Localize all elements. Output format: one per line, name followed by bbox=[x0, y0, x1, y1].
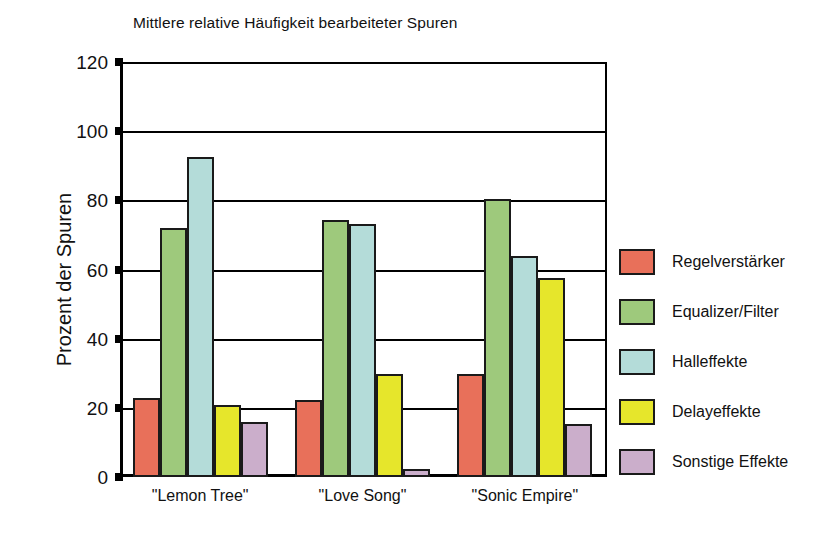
legend-label: Delayeffekte bbox=[672, 403, 761, 421]
bar bbox=[457, 374, 484, 477]
bar bbox=[484, 199, 511, 477]
legend-label: Halleffekte bbox=[672, 353, 747, 371]
legend-item[interactable]: Equalizer/Filter bbox=[619, 298, 779, 326]
bar bbox=[160, 228, 187, 477]
bar bbox=[511, 256, 538, 477]
plot-area: 020406080100120 bbox=[120, 62, 607, 477]
y-tick-label: 120 bbox=[76, 53, 108, 72]
chart-title: Mittlere relative Häufigkeit bearbeitete… bbox=[133, 14, 457, 32]
bar bbox=[214, 405, 241, 477]
bars-layer bbox=[120, 62, 607, 477]
legend-item[interactable]: Halleffekte bbox=[619, 348, 747, 376]
legend-label: Equalizer/Filter bbox=[672, 303, 779, 321]
bar bbox=[295, 400, 322, 477]
bar bbox=[241, 422, 268, 477]
legend-color-swatch bbox=[619, 349, 655, 375]
legend-item[interactable]: Sonstige Effekte bbox=[619, 448, 788, 476]
bar-chart-figure: Mittlere relative Häufigkeit bearbeitete… bbox=[0, 0, 829, 535]
x-tick-label: "Sonic Empire" bbox=[472, 487, 579, 505]
x-tick-label: "Love Song" bbox=[319, 487, 407, 505]
legend-label: Regelverstärker bbox=[672, 253, 785, 271]
y-tick-label: 100 bbox=[76, 122, 108, 141]
legend-item[interactable]: Regelverstärker bbox=[619, 248, 785, 276]
bar bbox=[349, 224, 376, 477]
bar bbox=[187, 157, 214, 477]
y-tick-label: 0 bbox=[97, 468, 108, 487]
bar bbox=[322, 220, 349, 477]
y-tick-label: 20 bbox=[87, 398, 108, 417]
legend-color-swatch bbox=[619, 449, 655, 475]
bar bbox=[133, 398, 160, 477]
bar bbox=[565, 424, 592, 477]
x-tick-label: "Lemon Tree" bbox=[152, 487, 249, 505]
y-tick-label: 40 bbox=[87, 329, 108, 348]
y-tick-label: 60 bbox=[87, 260, 108, 279]
legend-color-swatch bbox=[619, 399, 655, 425]
legend-item[interactable]: Delayeffekte bbox=[619, 398, 761, 426]
y-axis-title: Prozent der Spuren bbox=[53, 140, 76, 420]
legend-label: Sonstige Effekte bbox=[672, 453, 788, 471]
legend-color-swatch bbox=[619, 249, 655, 275]
legend-color-swatch bbox=[619, 299, 655, 325]
bar bbox=[376, 374, 403, 477]
y-tick-label: 80 bbox=[87, 191, 108, 210]
bar bbox=[538, 278, 565, 477]
bar bbox=[403, 469, 430, 477]
